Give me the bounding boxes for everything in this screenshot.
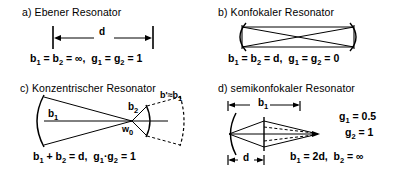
panel-a-formula: b1 = b2 = ∞, g1 = g2 = 1 — [30, 52, 142, 64]
panel-d-title: d) semikonfokaler Resonator — [218, 82, 355, 94]
panel-c-formula: b1 + b2 = d, g1·g2 = 1 — [33, 150, 136, 162]
panel-semiconfocal-resonator: d) semikonfokaler Resonator — [218, 82, 355, 94]
ray-lower-right — [132, 121, 147, 136]
label-waist-w0: w0 — [122, 124, 133, 134]
panel-b-formula: b1 = b2 = d, g1 = g2 = 0 — [228, 52, 339, 64]
arrowhead-top-left — [228, 103, 235, 108]
virtual-ray-upper — [264, 127, 314, 133]
panel-plane-resonator: a) Ebener Resonator — [22, 6, 121, 18]
label-b2-c: b2 — [128, 101, 138, 112]
dimension-label-d-d: d — [243, 152, 249, 163]
arrowhead-bottom-right — [257, 158, 264, 163]
ray-lower-left — [44, 121, 132, 145]
dimension-label-b1-d: b1 — [258, 97, 268, 108]
panel-confocal-resonator: b) Konfokaler Resonator — [218, 6, 334, 18]
resonator-types-figure: a) Ebener Resonator d b1 = b2 = ∞, g1 = … — [0, 0, 413, 178]
arrowhead-right — [145, 35, 152, 41]
ray-upper — [229, 121, 264, 134]
virtual-ray-lower — [264, 135, 314, 141]
virtual-mirror — [180, 96, 184, 146]
dimension-label-d-a: d — [99, 26, 105, 37]
ray-lower — [229, 134, 264, 147]
confocal-resonator-svg — [228, 22, 368, 52]
ray-lower-converge — [264, 135, 314, 147]
label-b1-c: b1 — [48, 108, 58, 119]
panel-d-formula: b1 = 2d, b2 = ∞ — [290, 150, 364, 162]
arrowhead-left — [54, 35, 61, 41]
arrowhead-bottom-left — [228, 158, 235, 163]
panel-b-title: b) Konfokaler Resonator — [218, 6, 334, 18]
label-bprime-c: b'≈b1 — [160, 90, 182, 100]
panel-b-diagram — [228, 22, 368, 52]
panel-d-condition-g1: g1 = 0.5 — [339, 110, 376, 122]
panel-d-condition-g2: g2 = 1 — [345, 126, 373, 138]
virtual-ray-lower — [147, 136, 180, 145]
mirror-left-curved — [37, 95, 44, 147]
arrowhead-top-right — [293, 103, 300, 108]
panel-a-title: a) Ebener Resonator — [22, 6, 121, 18]
ray-upper-converge — [264, 121, 314, 133]
axis-arrowhead — [312, 131, 320, 137]
